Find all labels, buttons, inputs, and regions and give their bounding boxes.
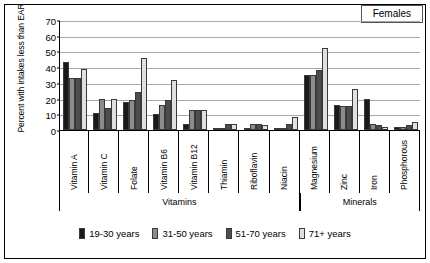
plot-area: 010203040506070 [59, 21, 420, 131]
bar-group [331, 21, 361, 130]
legend-swatch [226, 228, 232, 239]
legend-swatch [152, 228, 158, 239]
bar [352, 89, 358, 130]
bar [111, 99, 117, 130]
bar-group [301, 21, 331, 130]
category-cell: Thiamin [209, 131, 239, 193]
legend-swatch [79, 228, 85, 239]
chart-title-label: Females [373, 8, 411, 19]
bar [141, 58, 147, 130]
category-label: Magnesium [309, 146, 319, 190]
category-label: Iron [369, 175, 379, 190]
y-tick-label: 60 [45, 31, 56, 42]
legend-label: 51-70 years [236, 228, 286, 239]
category-cell: Phosphorous [390, 131, 420, 193]
y-tick-label: 50 [45, 47, 56, 58]
category-group-label: Minerals [300, 193, 420, 211]
bar [322, 48, 328, 130]
bar-group [271, 21, 301, 130]
category-cell: Riboflavin [240, 131, 270, 193]
chart-legend: 19-30 years31-50 years51-70 years71+ yea… [0, 228, 430, 239]
category-cell: Magnesium [300, 131, 330, 193]
legend-item: 71+ years [299, 228, 351, 239]
category-label: Folate [129, 166, 139, 190]
category-cell: Niacin [270, 131, 300, 193]
y-tick-label: 20 [45, 94, 56, 105]
category-cell: Vitamin A [59, 131, 89, 193]
category-group-label: Vitamins [59, 193, 300, 211]
bar [382, 127, 388, 130]
category-label: Vitamin A [69, 154, 79, 190]
bar-group [120, 21, 150, 130]
category-axis: Vitamin AVitamin CFolateVitamin B6Vitami… [59, 131, 420, 193]
category-cell: Folate [119, 131, 149, 193]
legend-label: 19-30 years [89, 228, 139, 239]
bar-group [241, 21, 271, 130]
bar-group [361, 21, 391, 130]
category-label: Vitamin B6 [159, 149, 169, 190]
category-label: Vitamin C [99, 153, 109, 190]
category-label: Vitamin B12 [189, 144, 199, 190]
y-tick-label: 10 [45, 110, 56, 121]
category-label: Zinc [339, 174, 349, 190]
y-tick-label: 40 [45, 63, 56, 74]
bar [262, 125, 268, 130]
y-tick-label: 0 [51, 126, 56, 137]
bar-group [210, 21, 240, 130]
legend-item: 19-30 years [79, 228, 139, 239]
category-label: Riboflavin [249, 153, 259, 190]
bar-group [180, 21, 210, 130]
bar [231, 124, 237, 130]
bar [292, 117, 298, 130]
category-cell: Vitamin B6 [149, 131, 179, 193]
bars-layer [60, 21, 420, 130]
bar [412, 122, 418, 130]
chart-root: Percent with intakes less than EAR Femal… [0, 0, 430, 263]
category-label: Phosphorous [399, 140, 409, 190]
category-cell: Vitamin C [89, 131, 119, 193]
legend-label: 31-50 years [162, 228, 212, 239]
category-cell: Iron [360, 131, 390, 193]
category-cell: Zinc [330, 131, 360, 193]
category-group-axis: VitaminsMinerals [59, 193, 420, 211]
bar-group [391, 21, 421, 130]
legend-item: 31-50 years [152, 228, 212, 239]
y-tick-label: 30 [45, 78, 56, 89]
bar-group [60, 21, 90, 130]
category-label: Thiamin [219, 160, 229, 190]
category-cell: Vitamin B12 [179, 131, 209, 193]
y-axis-title: Percent with intakes less than EAR [16, 0, 26, 143]
category-label: Niacin [279, 166, 289, 190]
legend-item: 51-70 years [226, 228, 286, 239]
y-tick-label: 70 [45, 16, 56, 27]
legend-label: 71+ years [309, 228, 351, 239]
bar [81, 69, 87, 130]
legend-swatch [299, 228, 305, 239]
bar [201, 110, 207, 130]
bar-group [150, 21, 180, 130]
bar [171, 80, 177, 130]
bar-group [90, 21, 120, 130]
